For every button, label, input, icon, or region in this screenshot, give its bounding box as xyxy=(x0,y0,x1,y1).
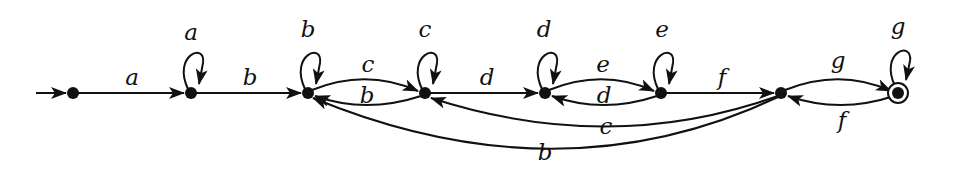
loop-q7 xyxy=(891,51,910,86)
state-q6 xyxy=(775,87,787,99)
label-q6-q7: g xyxy=(831,47,846,73)
state-q7 xyxy=(892,87,904,99)
state-q2 xyxy=(302,87,314,99)
state-q1 xyxy=(185,87,197,99)
label-q0-q1: a xyxy=(125,64,139,90)
label-loop-q1: a xyxy=(184,19,198,45)
label-q1-q2: b xyxy=(243,64,258,90)
label-q6-q2: b xyxy=(538,139,553,165)
label-loop-q7: g xyxy=(891,13,906,39)
label-loop-q5: e xyxy=(655,16,669,42)
label-q2-q3: c xyxy=(362,51,375,77)
label-q3-q4: d xyxy=(480,64,495,90)
label-q7-q6: f xyxy=(836,107,850,133)
state-q0 xyxy=(67,87,79,99)
loop-q2 xyxy=(301,53,320,89)
label-q4-q5: e xyxy=(596,51,610,77)
edge-q7-q6 xyxy=(788,96,894,105)
label-q5-q6: f xyxy=(716,64,730,90)
state-q4 xyxy=(539,87,551,99)
state-q3 xyxy=(419,87,431,99)
loop-q5 xyxy=(654,53,673,89)
label-loop-q3: c xyxy=(419,16,432,42)
automaton-diagram: a a b b c b c d d e d e f c b g f g xyxy=(0,0,953,181)
loop-q4 xyxy=(538,53,557,89)
label-q6-q3: c xyxy=(600,113,613,139)
loop-q3 xyxy=(418,53,437,89)
label-loop-q4: d xyxy=(537,16,552,42)
label-loop-q2: b xyxy=(301,16,316,42)
label-q3-q2: b xyxy=(360,82,375,108)
label-q5-q4: d xyxy=(597,82,612,108)
loop-q1 xyxy=(184,53,203,89)
state-q5 xyxy=(655,87,667,99)
edge-q6-q7 xyxy=(785,79,891,91)
